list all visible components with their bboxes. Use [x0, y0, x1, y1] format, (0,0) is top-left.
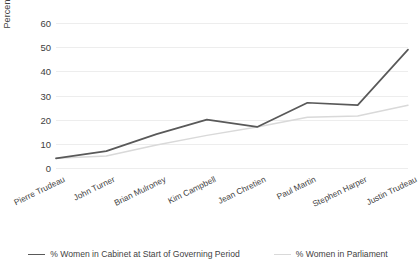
x-axis-tick-label: Jean Chretien: [216, 174, 267, 206]
x-axis-tick-label: Pierre Trudeau: [12, 174, 66, 207]
gridline: [56, 168, 408, 169]
x-axis-tick-label: Stephen Harper: [311, 174, 369, 209]
legend-color-swatch: [274, 254, 291, 255]
y-axis-tick-label: 40: [40, 66, 51, 77]
x-axis-tick-label: Kim Campbell: [166, 174, 217, 206]
series-lines: [56, 23, 408, 168]
legend-label: % Women in Parliament: [296, 250, 388, 259]
chart-legend: % Women in Cabinet at Start of Governing…: [0, 250, 416, 259]
legend-color-swatch: [28, 254, 45, 255]
legend-label: % Women in Cabinet at Start of Governing…: [50, 250, 239, 259]
legend-item[interactable]: % Women in Cabinet at Start of Governing…: [28, 250, 239, 259]
y-axis-tick-label: 50: [40, 42, 51, 53]
legend-item[interactable]: % Women in Parliament: [274, 250, 388, 259]
series-line: [56, 50, 408, 159]
y-axis-title-label: Percentage: [2, 0, 12, 60]
y-axis-tick-label: 60: [40, 18, 51, 29]
y-axis-tick-label: 30: [40, 90, 51, 101]
x-axis-tick-label: Paul Martin: [275, 174, 317, 202]
x-axis-tick-label: John Turner: [72, 174, 117, 203]
x-axis-tick-label: Justin Trudeau: [365, 174, 418, 207]
plot-area: 0102030405060: [56, 23, 408, 168]
y-axis-tick-label: 0: [46, 163, 51, 174]
y-axis-tick-label: 10: [40, 138, 51, 149]
y-axis-tick-label: 20: [40, 114, 51, 125]
x-axis-tick-label: Brian Mulroney: [112, 174, 167, 208]
y-axis-title: Percentage: [2, 0, 12, 60]
